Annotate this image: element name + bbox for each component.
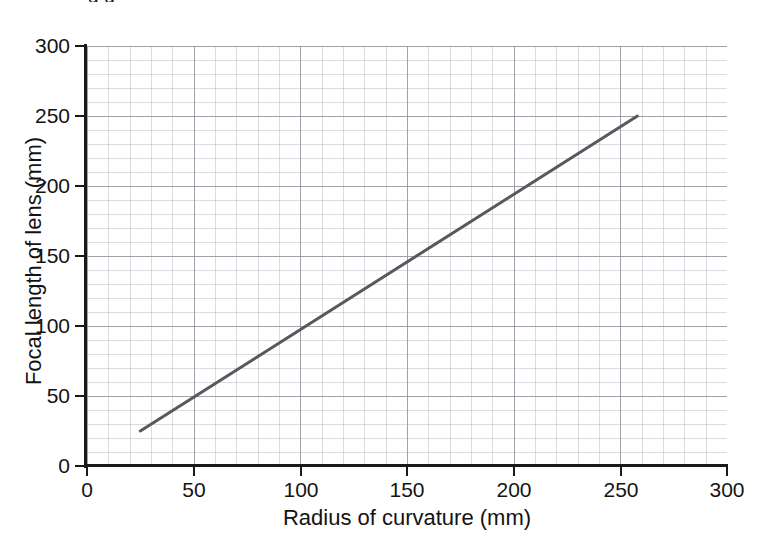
line-chart-figure: 300 250 200 150 100 50 0 0 50 100 150 20… bbox=[0, 0, 763, 550]
y-tick-0 bbox=[75, 465, 85, 467]
x-tick-label-100: 100 bbox=[271, 479, 331, 500]
x-tick-label-150: 150 bbox=[377, 479, 437, 500]
x-tick-label-0: 0 bbox=[57, 479, 117, 500]
x-tick-label-50: 50 bbox=[164, 479, 224, 500]
y-tick-100 bbox=[75, 325, 85, 327]
chart-page: g g 300 250 200 150 100 50 0 0 50 100 bbox=[0, 0, 763, 550]
x-axis-title: Radius of curvature (mm) bbox=[87, 505, 727, 531]
y-tick-200 bbox=[75, 185, 85, 187]
x-tick-150 bbox=[406, 466, 408, 476]
x-tick-label-250: 250 bbox=[591, 479, 651, 500]
y-tick-300 bbox=[75, 45, 85, 47]
x-tick-label-300: 300 bbox=[697, 479, 757, 500]
y-tick-250 bbox=[75, 115, 85, 117]
x-tick-100 bbox=[300, 466, 302, 476]
x-tick-0 bbox=[86, 466, 88, 476]
y-tick-150 bbox=[75, 255, 85, 257]
x-tick-50 bbox=[193, 466, 195, 476]
x-tick-200 bbox=[513, 466, 515, 476]
plot-area bbox=[87, 46, 727, 466]
y-tick-50 bbox=[75, 395, 85, 397]
y-axis-title: Focal length of lens (mm) bbox=[21, 51, 47, 471]
x-tick-300 bbox=[726, 466, 728, 476]
x-tick-label-200: 200 bbox=[484, 479, 544, 500]
x-tick-250 bbox=[620, 466, 622, 476]
